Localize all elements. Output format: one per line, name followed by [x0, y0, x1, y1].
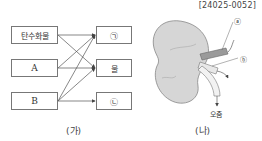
urine-label: 오줌 — [210, 109, 222, 119]
arrows-layer — [0, 0, 262, 141]
caption-ga: (가) — [66, 124, 81, 137]
label-a: ⓐ — [234, 16, 241, 26]
label-b: ⓑ — [240, 54, 247, 64]
caption-na: (나) — [195, 124, 210, 137]
kidney-illustration — [153, 21, 238, 106]
